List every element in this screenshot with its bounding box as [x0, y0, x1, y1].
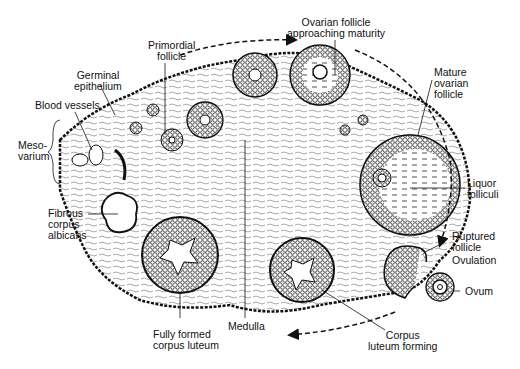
label-fully-formed-corpus-luteum: Fully formed corpus luteum — [153, 329, 219, 351]
label-primordial-follicle: Primordial follicle — [148, 40, 195, 62]
label-mature-ovarian-follicle: Mature ovarian follicle — [434, 67, 468, 100]
label-mesovarium: Meso- varium — [18, 140, 50, 162]
label-corpus-luteum-forming: Corpus luteum forming — [368, 330, 437, 352]
corpus-albicans — [102, 193, 137, 232]
label-ovarian-follicle-approaching-maturity: Ovarian follicle approaching maturity — [287, 17, 385, 39]
label-blood-vessels: Blood vessels — [35, 100, 100, 111]
label-germinal-epithelium: Germinal epithelium — [74, 70, 122, 92]
label-ovulation: Ovulation — [452, 255, 496, 266]
corpus-luteum-forming — [270, 238, 334, 302]
label-liquor-folliculi: Liquor folliculi — [467, 178, 499, 200]
label-ruptured-follicle: Ruptured follicle — [452, 231, 495, 253]
fully-formed-corpus-luteum — [142, 217, 218, 293]
label-medulla: Medulla — [228, 321, 265, 332]
ovary-diagram — [0, 0, 520, 369]
label-fibrous-corpus-albicans: Fibrous corpus albicans — [48, 208, 87, 241]
label-ovum: Ovum — [465, 286, 493, 297]
